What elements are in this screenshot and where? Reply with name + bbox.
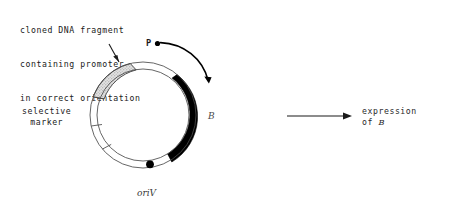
segment-gene-b	[168, 75, 198, 162]
origin-of-replication-label: oriV	[137, 188, 156, 198]
oriv-dot-icon	[146, 160, 154, 168]
segment-boundary-ticks	[91, 97, 111, 149]
diagram-canvas: cloned DNA fragment containing promoter …	[0, 0, 450, 204]
plasmid-map	[0, 0, 450, 204]
plasmid-ring	[90, 62, 198, 168]
expression-gene-name: B	[378, 117, 384, 127]
segment-cloned-dna-fragment	[93, 63, 136, 99]
tick-mid-left	[91, 125, 102, 127]
expression-line-2: of B	[362, 117, 384, 127]
expression-of-prefix: of	[362, 117, 378, 127]
cloned-fragment-pointer-arrow	[109, 44, 119, 62]
transcription-direction-arrow	[161, 43, 212, 84]
selective-marker-line-1: selective	[22, 106, 71, 116]
promoter-label: P	[146, 38, 151, 48]
promoter-dot-icon	[155, 41, 160, 46]
selective-marker-line-2: marker	[30, 117, 63, 127]
expression-result-label: expression of B	[362, 106, 417, 129]
selective-marker-label: selective marker	[22, 106, 71, 129]
implies-arrow-icon	[286, 108, 356, 124]
expression-line-1: expression	[362, 106, 417, 116]
gene-b-label: B	[208, 111, 215, 121]
